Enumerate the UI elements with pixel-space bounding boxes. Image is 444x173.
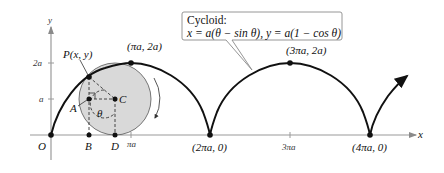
point-a <box>87 97 92 102</box>
point-top-2 <box>287 60 293 66</box>
callout-title: Cycloid: <box>187 14 227 27</box>
cycloid-diagram: x y 2a a πa 3πa P(x, y) (πa, 2a) (3 <box>0 0 444 173</box>
label-d: D <box>110 140 119 152</box>
label-p: P(x, y) <box>62 48 93 61</box>
x-axis-label: x <box>417 128 423 140</box>
label-b: B <box>85 140 92 152</box>
y-tick-label-2a: 2a <box>33 58 43 68</box>
point-cusp-4pia <box>367 132 373 138</box>
callout-equation: x = a(θ − sin θ), y = a(1 − cos θ) <box>186 27 341 40</box>
label-cusp-4pia: (4πa, 0) <box>352 141 387 154</box>
point-d <box>113 133 118 138</box>
label-cusp-2pia: (2πa, 0) <box>192 141 227 154</box>
label-c: C <box>119 93 127 105</box>
point-origin <box>48 132 54 138</box>
label-a: A <box>69 102 77 114</box>
y-tick-label-a: a <box>39 94 44 104</box>
x-tick-label-pia: πa <box>127 139 137 149</box>
y-axis-label: y <box>47 15 52 25</box>
rotation-arrow-icon <box>154 78 160 118</box>
label-top-2: (3πa, 2a) <box>286 44 327 57</box>
point-p <box>86 74 92 80</box>
label-origin: O <box>38 140 46 152</box>
p-leader-line <box>80 60 88 75</box>
label-top-1: (πa, 2a) <box>127 40 162 53</box>
point-top-1 <box>128 60 134 66</box>
x-tick-label-3pia: 3πa <box>281 142 296 152</box>
point-cusp-2pia <box>207 132 213 138</box>
point-c <box>113 97 118 102</box>
cycloid-callout: Cycloid: x = a(θ − sin θ), y = a(1 − cos… <box>182 12 342 70</box>
point-b <box>87 133 92 138</box>
label-theta: θ <box>97 107 103 119</box>
